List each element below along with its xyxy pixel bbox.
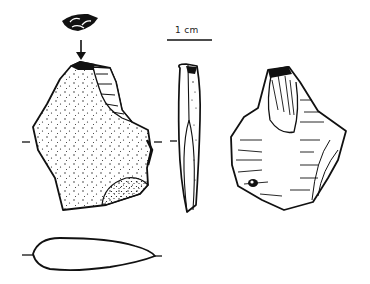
scale-bar-label: 1 cm xyxy=(175,25,199,35)
percussion-arrow-icon xyxy=(76,40,86,60)
platform-view xyxy=(62,14,98,31)
dorsal-view xyxy=(33,61,152,210)
cross-section-view xyxy=(33,238,155,270)
lithic-drawing-figure: 1 cm xyxy=(0,0,370,284)
profile-view xyxy=(179,64,201,212)
drawing-canvas xyxy=(0,0,370,284)
ventral-view xyxy=(231,66,346,210)
